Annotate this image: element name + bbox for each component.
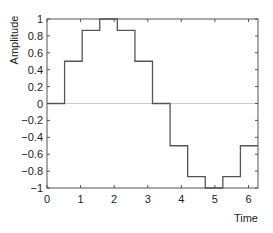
y-tick-label: −0.8 xyxy=(21,165,43,177)
x-tick-label: 6 xyxy=(245,193,251,205)
y-axis-label: Amplitude xyxy=(8,16,20,65)
x-tick-label: 3 xyxy=(145,193,151,205)
x-tick-label: 2 xyxy=(111,193,117,205)
x-tick-label: 0 xyxy=(44,193,50,205)
x-tick-label: 5 xyxy=(212,193,218,205)
y-tick-label: −1 xyxy=(30,182,43,194)
y-tick-label: 0.6 xyxy=(28,47,43,59)
x-tick-label: 1 xyxy=(78,193,84,205)
x-axis-ticks: 0123456 xyxy=(44,19,252,205)
y-tick-label: 0.2 xyxy=(28,81,43,93)
y-tick-label: 0.8 xyxy=(28,30,43,42)
y-tick-label: −0.2 xyxy=(21,114,43,126)
y-tick-label: 0 xyxy=(37,98,43,110)
y-tick-label: 1 xyxy=(37,13,43,25)
x-axis-label: Time xyxy=(234,212,258,224)
y-tick-label: −0.6 xyxy=(21,148,43,160)
y-tick-label: −0.4 xyxy=(21,131,43,143)
x-tick-label: 4 xyxy=(178,193,184,205)
stairs-chart: 0123456 10.80.60.40.20−0.2−0.4−0.6−0.8−1… xyxy=(0,0,273,233)
y-tick-label: 0.4 xyxy=(28,64,43,76)
